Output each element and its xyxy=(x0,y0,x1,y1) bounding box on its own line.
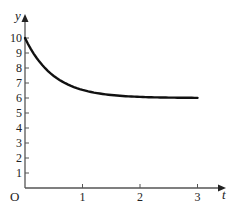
y-tick-label: 3 xyxy=(16,136,22,150)
y-axis-label: y xyxy=(13,8,21,23)
y-tick-label: 6 xyxy=(16,91,22,105)
y-tick-label: 5 xyxy=(16,106,22,120)
y-tick-label: 4 xyxy=(16,121,22,135)
y-tick-label: 1 xyxy=(16,166,22,180)
x-tick-label: 3 xyxy=(195,190,201,204)
chart: 12312345678910 y t O xyxy=(0,0,233,213)
data-curve xyxy=(25,38,198,98)
x-tick-label: 1 xyxy=(80,190,86,204)
y-tick-label: 2 xyxy=(16,151,22,165)
y-tick-label: 9 xyxy=(16,46,22,60)
axes xyxy=(22,14,227,192)
y-tick-label: 10 xyxy=(10,31,22,45)
y-tick-label: 8 xyxy=(16,61,22,75)
origin-label: O xyxy=(10,189,19,204)
x-axis-label: t xyxy=(222,187,226,202)
y-axis-arrow-icon xyxy=(22,14,29,22)
y-tick-label: 7 xyxy=(16,76,22,90)
ticks: 12312345678910 xyxy=(10,31,201,204)
x-tick-label: 2 xyxy=(137,190,143,204)
